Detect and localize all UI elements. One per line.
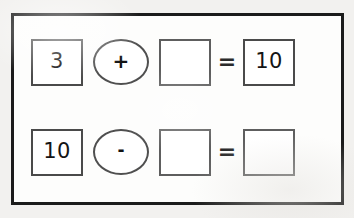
row2-operand-left-box[interactable]: 10 xyxy=(31,129,83,176)
equation-rows-container: 3 + = 10 10 - xyxy=(14,16,347,208)
equation-row-1: 3 + = 10 xyxy=(31,38,331,86)
row1-result-value: 10 xyxy=(255,51,283,72)
row2-operator-circle: - xyxy=(93,129,149,175)
row1-operator-circle: + xyxy=(93,39,149,85)
equation-row-2: 10 - = xyxy=(31,128,331,176)
row1-equals-sign: = xyxy=(211,51,243,73)
row1-operand-left-value: 3 xyxy=(50,51,64,72)
row2-equals-sign: = xyxy=(211,141,243,163)
minus-sign-icon: - xyxy=(117,142,124,159)
row2-result-box[interactable] xyxy=(243,129,295,176)
worksheet-frame: 3 + = 10 10 - xyxy=(11,13,344,205)
row1-operand-right-box[interactable] xyxy=(159,39,211,86)
plus-sign-icon: + xyxy=(113,51,130,71)
row2-operand-left-value: 10 xyxy=(43,141,71,162)
row1-operand-left-box[interactable]: 3 xyxy=(31,39,83,86)
row1-result-box[interactable]: 10 xyxy=(243,39,295,86)
row2-operand-right-box[interactable] xyxy=(159,129,211,176)
